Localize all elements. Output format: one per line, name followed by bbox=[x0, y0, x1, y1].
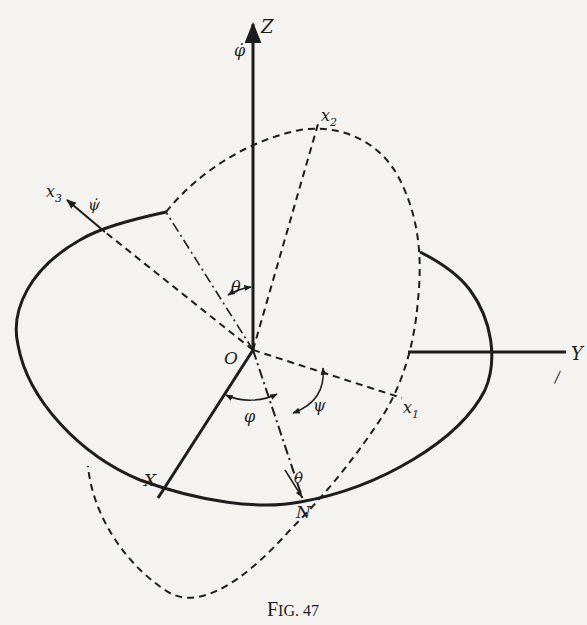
label-x3: x3 bbox=[46, 182, 62, 205]
label-n: N bbox=[295, 502, 312, 522]
label-psi: ψ bbox=[313, 396, 326, 415]
label-x1: x1 bbox=[403, 398, 419, 421]
x1-axis bbox=[253, 350, 402, 398]
label-x2: x2 bbox=[321, 106, 337, 129]
label-z: Z bbox=[260, 16, 274, 37]
label-phi: φ bbox=[244, 407, 256, 426]
label-psi-dot: ψ̇ bbox=[88, 196, 100, 214]
label-y: Y bbox=[571, 343, 585, 364]
label-x: X bbox=[142, 470, 157, 490]
x-axis bbox=[158, 350, 253, 498]
label-o: O bbox=[224, 348, 238, 368]
label-theta-dot: θ̇ bbox=[294, 469, 303, 487]
label-theta: θ bbox=[231, 278, 241, 297]
phi-arc bbox=[226, 394, 277, 400]
euler-angles-diagram: Z φ̇ Y / O X N θ̇ x1 x2 x3 ψ̇ θ φ ψ FIG.… bbox=[0, 0, 587, 625]
stray-mark: / bbox=[553, 369, 561, 385]
figure-caption: FIG. 47 bbox=[267, 598, 319, 620]
label-phi-dot: φ̇ bbox=[234, 41, 246, 60]
x2-axis bbox=[253, 124, 318, 350]
